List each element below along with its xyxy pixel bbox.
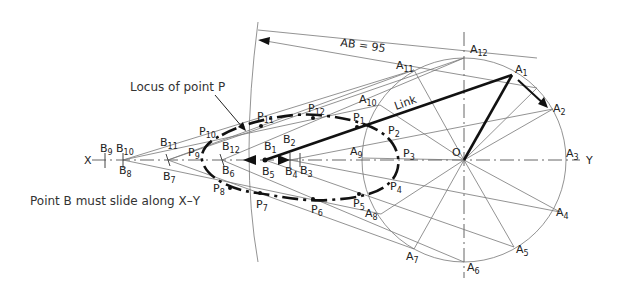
svg-text:A2: A2 [553,102,566,117]
svg-text:B1: B1 [264,140,277,155]
svg-text:P10: P10 [199,125,216,140]
mechanism-diagram: Locus of point P Point B must slide alon… [0,0,623,293]
locus-label: Locus of point P [130,80,225,94]
locus-pointer-line [215,95,243,128]
svg-text:A1: A1 [515,63,528,78]
slide-right-arrow-icon [278,155,290,165]
svg-text:A5: A5 [516,243,529,258]
svg-text:A10: A10 [359,93,377,108]
svg-text:A11: A11 [396,59,414,74]
svg-text:B7: B7 [163,170,176,185]
point-b-marker [263,158,268,163]
svg-text:B11: B11 [160,136,178,151]
slide-left-arrow-icon [243,155,256,165]
svg-text:P6: P6 [311,203,323,218]
slide-note: Point B must slide along X–Y [30,194,201,208]
axis-x-label: X [84,154,92,167]
svg-text:B12: B12 [222,140,240,155]
svg-text:A8: A8 [365,207,378,222]
axis-y-label: Y [585,154,593,167]
svg-text:B4: B4 [285,165,298,180]
crank-radial-lines [362,70,560,249]
svg-text:P2: P2 [388,124,400,139]
svg-text:B2: B2 [283,133,296,148]
svg-text:B10: B10 [116,142,134,157]
svg-text:B9: B9 [100,142,113,157]
svg-text:B5: B5 [262,165,275,180]
dimension-arrowhead-icon [258,37,270,45]
dimension-label: AB = 95 [340,36,387,55]
svg-text:A7: A7 [406,250,419,265]
svg-text:P1: P1 [353,111,365,126]
svg-text:P3: P3 [403,147,415,162]
center-o-label: O [452,146,461,159]
svg-text:A6: A6 [467,261,480,276]
svg-text:P7: P7 [256,198,268,213]
svg-text:P11: P11 [257,110,274,125]
svg-text:B8: B8 [119,164,132,179]
svg-text:P9: P9 [188,146,200,161]
svg-text:P12: P12 [308,102,325,117]
svg-text:B3: B3 [300,164,313,179]
svg-text:A12: A12 [470,43,488,58]
ab-radius-arc [249,22,258,262]
svg-text:P8: P8 [213,182,225,197]
svg-text:B6: B6 [222,164,235,179]
link-ab [265,75,512,160]
svg-text:P5: P5 [353,197,365,212]
svg-text:A4: A4 [556,206,569,221]
svg-text:A3: A3 [566,147,579,162]
svg-text:P4: P4 [390,180,402,195]
svg-text:A9: A9 [350,145,363,160]
